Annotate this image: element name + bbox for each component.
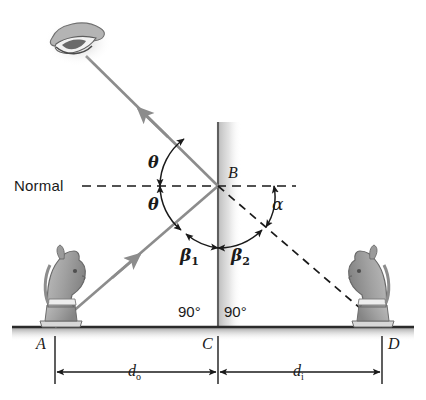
angle-label-beta1-sub: 1 (191, 255, 199, 268)
point-label-d: D (388, 336, 400, 352)
angle-arc-theta-upper (160, 139, 184, 186)
knight-image-base (352, 321, 394, 327)
knight-object-ear (57, 245, 64, 259)
angle-label-alpha: α (272, 196, 283, 213)
dimension-label-do-base: d (128, 362, 136, 379)
mirror-reflection-figure: Normal B θ θ α β1 β2 90° 90° A C D do di (0, 0, 426, 400)
ground-shadow (12, 328, 414, 341)
dimension-label-object-distance: do (128, 363, 141, 382)
reflected-ray-arrowhead (138, 108, 168, 137)
knight-object-eye (73, 269, 77, 273)
dimension-label-image-distance: di (293, 363, 304, 382)
angle-label-beta2-base: β (231, 245, 242, 265)
mirror-shadow-band (219, 122, 241, 327)
figure-canvas (0, 0, 426, 400)
angle-label-left-90: 90° (178, 304, 201, 319)
angle-label-beta2-sub: 2 (242, 255, 250, 268)
knight-object-collar (48, 299, 76, 305)
point-label-c: C (202, 336, 213, 352)
knight-image-ear (370, 245, 377, 259)
ground-assembly (12, 327, 414, 341)
eye-icon (44, 18, 112, 66)
dimension-assembly (55, 336, 382, 384)
incident-ray-arrowhead (112, 254, 140, 278)
angle-label-beta2: β2 (231, 247, 250, 267)
knight-object-base (40, 321, 82, 327)
point-label-a: A (36, 336, 46, 352)
point-label-b: B (228, 165, 238, 181)
angle-label-beta1-base: β (180, 245, 191, 265)
knight-image-collar (358, 299, 386, 305)
angle-label-right-90: 90° (224, 304, 247, 319)
angle-label-theta-upper: θ (148, 155, 159, 171)
dimension-label-do-sub: o (136, 371, 141, 382)
dimension-label-di-sub: i (301, 371, 304, 382)
normal-label: Normal (14, 178, 64, 193)
angle-label-beta1: β1 (180, 247, 199, 267)
dimension-label-di-base: d (293, 362, 301, 379)
chess-knight-object-icon (40, 245, 85, 327)
angle-label-theta-lower: θ (148, 197, 159, 213)
angle-arc-theta-lower (160, 186, 181, 230)
chess-knight-image-icon (349, 245, 394, 327)
knight-image-eye (357, 269, 361, 273)
mirror-assembly (218, 122, 241, 327)
